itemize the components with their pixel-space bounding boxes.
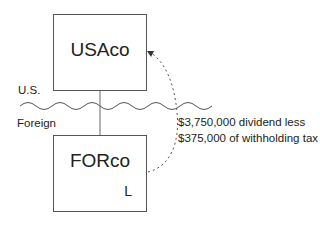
arrowhead-icon [147, 51, 154, 57]
usaco-entity-box: USAco [53, 14, 147, 91]
region-label-us: U.S. [18, 84, 40, 96]
region-label-foreign: Foreign [17, 117, 56, 129]
diagram-lines [0, 0, 320, 225]
border-wave-line [20, 103, 212, 110]
forco-label: FORco [54, 150, 146, 172]
usaco-label: USAco [54, 39, 146, 61]
dividend-flow-arrow [148, 52, 178, 172]
dividend-note-line-2: $375,000 of withholding tax [178, 132, 318, 144]
dividend-note-line-1: $3,750,000 dividend less [178, 116, 305, 128]
forco-entity-box: FORco L [53, 135, 147, 212]
forco-corner-label: L [124, 183, 132, 199]
